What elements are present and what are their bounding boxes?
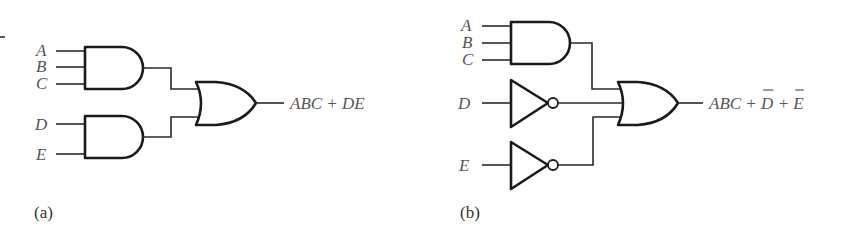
and-gate-abc-icon — [85, 47, 143, 89]
inversion-bubble-d-icon — [548, 98, 558, 108]
input-label-d: D — [34, 115, 48, 134]
expr-b-plus-2: + — [773, 94, 793, 113]
wire-a-abc — [143, 68, 201, 89]
input-label-e: E — [35, 145, 47, 164]
output-expression-b: ABC + D + E — [708, 94, 804, 113]
expr-b-e-not: E — [792, 94, 804, 113]
wire-b-abc — [570, 43, 622, 89]
not-gate-d-icon — [511, 80, 548, 127]
caption-a: (a) — [34, 203, 53, 222]
and-gate-de-icon — [85, 116, 143, 158]
not-gate-e-icon — [511, 142, 548, 189]
input-label-e: E — [458, 156, 470, 175]
wire-b-not-e — [558, 117, 622, 165]
diagram-a: A B C D E ABC + DE (a) — [34, 41, 365, 222]
input-label-c: C — [462, 50, 474, 69]
expr-b-abc: ABC — [708, 94, 742, 113]
expr-b-d-not: D — [760, 94, 774, 113]
wire-a-de — [143, 117, 201, 137]
output-expression-a: ABC + DE — [289, 94, 365, 113]
inversion-bubble-e-icon — [548, 160, 558, 170]
input-label-c: C — [36, 74, 48, 93]
diagram-b: A B C D E ABC + D + E (b) — [457, 16, 804, 222]
input-label-d: D — [457, 94, 471, 113]
caption-b: (b) — [460, 203, 480, 222]
logic-diagram-canvas: A B C D E ABC + DE (a) A B C — [0, 0, 855, 230]
and-gate-abc-icon — [511, 22, 570, 64]
or-gate-icon — [618, 82, 678, 125]
expr-b-plus-1: + — [741, 94, 761, 113]
or-gate-icon — [196, 82, 256, 125]
